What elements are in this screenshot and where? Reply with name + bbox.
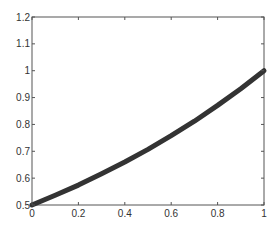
axes-box bbox=[32, 17, 264, 205]
x-tick-label: 0 bbox=[29, 208, 35, 219]
y-tick-label: 1.2 bbox=[16, 12, 30, 23]
y-tick-label: 0.7 bbox=[16, 146, 30, 157]
x-tick-label: 1 bbox=[261, 208, 267, 219]
y-tick-label: 0.9 bbox=[16, 92, 30, 103]
plot-area bbox=[32, 17, 264, 205]
line-chart: 00.20.40.60.81 0.50.60.70.80.911.11.2 bbox=[0, 0, 279, 227]
y-tick-label: 1.1 bbox=[16, 38, 30, 49]
y-tick-label: 0.6 bbox=[16, 173, 30, 184]
x-tick-label: 0.2 bbox=[71, 208, 85, 219]
y-tick-label: 0.8 bbox=[16, 119, 30, 130]
x-tick-label: 0.6 bbox=[164, 208, 178, 219]
y-tick-label: 1 bbox=[24, 65, 30, 76]
x-tick-label: 0.8 bbox=[211, 208, 225, 219]
y-tick-label: 0.5 bbox=[16, 200, 30, 211]
x-tick-label: 0.4 bbox=[118, 208, 132, 219]
